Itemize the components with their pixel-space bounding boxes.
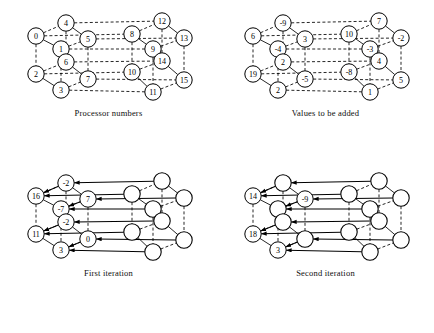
processor-node[interactable] <box>176 232 192 248</box>
reduction-arrow <box>69 242 81 247</box>
reduction-arrow <box>44 186 59 192</box>
node-circle <box>275 175 291 191</box>
node-circle <box>362 244 378 260</box>
node-label: 3 <box>59 246 63 255</box>
hypercube-edge <box>168 186 177 193</box>
processor-node[interactable]: 13 <box>176 30 192 46</box>
processor-node[interactable]: 6 <box>58 54 74 70</box>
processor-node[interactable]: 16 <box>28 188 44 204</box>
processor-node[interactable]: 5 <box>80 31 96 47</box>
hypercube-edge <box>260 40 270 45</box>
processor-node[interactable]: 2 <box>28 66 44 82</box>
hypercube-edge <box>140 24 155 30</box>
hypercube-edge <box>168 66 178 74</box>
processor-node[interactable]: 7 <box>80 191 96 207</box>
node-label: 0 <box>34 32 38 41</box>
processor-node[interactable]: 7 <box>80 71 96 87</box>
processor-node[interactable]: 12 <box>154 13 170 29</box>
processor-node[interactable]: -2 <box>393 30 409 46</box>
processor-node[interactable]: 2 <box>275 54 291 70</box>
processor-node[interactable]: 6 <box>245 28 261 44</box>
processor-node[interactable] <box>393 190 409 206</box>
hypercube-edge <box>286 250 362 252</box>
processor-node[interactable] <box>176 190 192 206</box>
hypercube-edge <box>291 61 371 62</box>
processor-node[interactable]: -5 <box>297 71 313 87</box>
node-label: 10 <box>128 68 136 77</box>
processor-node[interactable] <box>393 232 409 248</box>
node-circle <box>393 232 409 248</box>
processor-node[interactable] <box>145 244 161 260</box>
processor-node[interactable]: 3 <box>297 31 313 47</box>
panel-values-to-be-added: 6-4192-932-510-3-817-245Values to be add… <box>217 0 434 140</box>
hypercube-edge <box>356 39 364 44</box>
processor-node[interactable]: 4 <box>371 53 387 69</box>
hypercube-edge <box>139 39 147 44</box>
panel-caption: Second iteration <box>217 268 434 278</box>
processor-node[interactable] <box>124 186 140 202</box>
processor-node[interactable]: 11 <box>145 84 161 100</box>
hypercube-edge <box>69 42 81 46</box>
node-label: 1 <box>368 88 372 97</box>
node-label: 2 <box>276 86 280 95</box>
processor-node[interactable]: 14 <box>154 53 170 69</box>
hypercube-edge <box>355 238 364 247</box>
node-label: 3 <box>303 35 307 44</box>
node-label: 16 <box>32 192 40 201</box>
hypercube-edge <box>260 238 271 245</box>
node-label: 2 <box>34 70 38 79</box>
node-label: 7 <box>86 75 90 84</box>
processor-node[interactable] <box>297 231 313 247</box>
processor-node[interactable] <box>362 244 378 260</box>
processor-node[interactable] <box>341 224 357 240</box>
processor-node[interactable]: 15 <box>176 72 192 88</box>
processor-node[interactable]: 3 <box>53 242 69 258</box>
processor-node[interactable]: -2 <box>58 214 74 230</box>
processor-node[interactable] <box>124 224 140 240</box>
hypercube-edge <box>260 200 270 205</box>
processor-node[interactable]: 3 <box>53 82 69 98</box>
processor-node[interactable]: -8 <box>341 64 357 80</box>
node-label: 8 <box>130 30 134 39</box>
hypercube-edge <box>385 66 395 74</box>
processor-node[interactable]: 1 <box>362 84 378 100</box>
processor-node[interactable]: -2 <box>58 175 74 191</box>
processor-node[interactable]: 3 <box>270 242 286 258</box>
hypercube-edge <box>161 83 177 89</box>
reduction-arrow <box>69 202 81 206</box>
processor-node[interactable]: 0 <box>28 28 44 44</box>
processor-node[interactable]: 8 <box>124 26 140 42</box>
processor-node[interactable]: -9 <box>275 15 291 31</box>
processor-node[interactable]: 2 <box>270 82 286 98</box>
node-label: -4 <box>275 45 282 54</box>
processor-node[interactable]: 18 <box>245 226 261 242</box>
node-label: 5 <box>86 35 90 44</box>
hypercube-edge <box>385 26 394 33</box>
processor-node[interactable] <box>154 213 170 229</box>
processor-node[interactable]: 0 <box>80 231 96 247</box>
processor-node[interactable]: 19 <box>245 66 261 82</box>
processor-node[interactable] <box>154 173 170 189</box>
hypercube-edge <box>290 28 299 34</box>
processor-node[interactable]: 14 <box>245 188 261 204</box>
processor-node[interactable] <box>275 175 291 191</box>
processor-node[interactable]: 11 <box>28 226 44 242</box>
processor-node[interactable]: 7 <box>371 13 387 29</box>
hypercube-graph: 14183-9 <box>217 160 434 280</box>
node-label: 18 <box>249 230 257 239</box>
processor-node[interactable] <box>275 214 291 230</box>
hypercube-edge <box>74 181 154 183</box>
node-circle <box>341 224 357 240</box>
node-circle <box>145 244 161 260</box>
processor-node[interactable]: 10 <box>124 64 140 80</box>
processor-node[interactable] <box>341 186 357 202</box>
processor-node[interactable] <box>371 173 387 189</box>
processor-node[interactable]: 5 <box>393 72 409 88</box>
hypercube-graph: 6-4192-932-510-3-817-245 <box>217 0 434 120</box>
panel-caption: Values to be added <box>217 108 434 118</box>
hypercube-edge <box>357 184 372 190</box>
processor-node[interactable] <box>371 213 387 229</box>
processor-node[interactable]: 10 <box>341 26 357 42</box>
processor-node[interactable]: -9 <box>297 191 313 207</box>
processor-node[interactable]: 4 <box>58 15 74 31</box>
